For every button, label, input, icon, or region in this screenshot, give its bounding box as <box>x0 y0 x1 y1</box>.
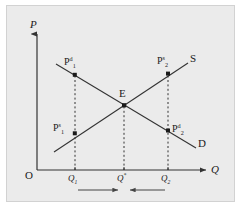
figure-container: P Q O S D E Pd1 Ps1 Ps2 Pd2 Q1 Q* Q2 <box>0 0 241 208</box>
supply-price-2-label: Ps2 <box>157 56 168 66</box>
origin-label: O <box>25 170 33 181</box>
demand-price-1-label: Pd1 <box>64 57 76 67</box>
point-marker-equilibrium <box>122 103 126 107</box>
supply-price-1-label: Ps1 <box>53 123 64 133</box>
x-axis-label: Q <box>211 164 219 175</box>
equilibrium-label: E <box>119 88 126 99</box>
tick-label-q2: Q2 <box>161 174 170 183</box>
tick-label-qstar: Q* <box>117 174 126 183</box>
point-marker-supply-price-2 <box>166 72 170 76</box>
point-marker-demand-price-2 <box>166 129 170 133</box>
tick-label-q1: Q1 <box>68 174 77 183</box>
point-marker-demand-price-1 <box>73 73 77 77</box>
point-marker-supply-price-1 <box>73 131 77 135</box>
demand-curve-label: D <box>198 138 206 149</box>
y-axis-label: P <box>30 19 37 30</box>
demand-price-2-label: Pd2 <box>172 124 184 134</box>
supply-curve-label: S <box>190 53 196 64</box>
